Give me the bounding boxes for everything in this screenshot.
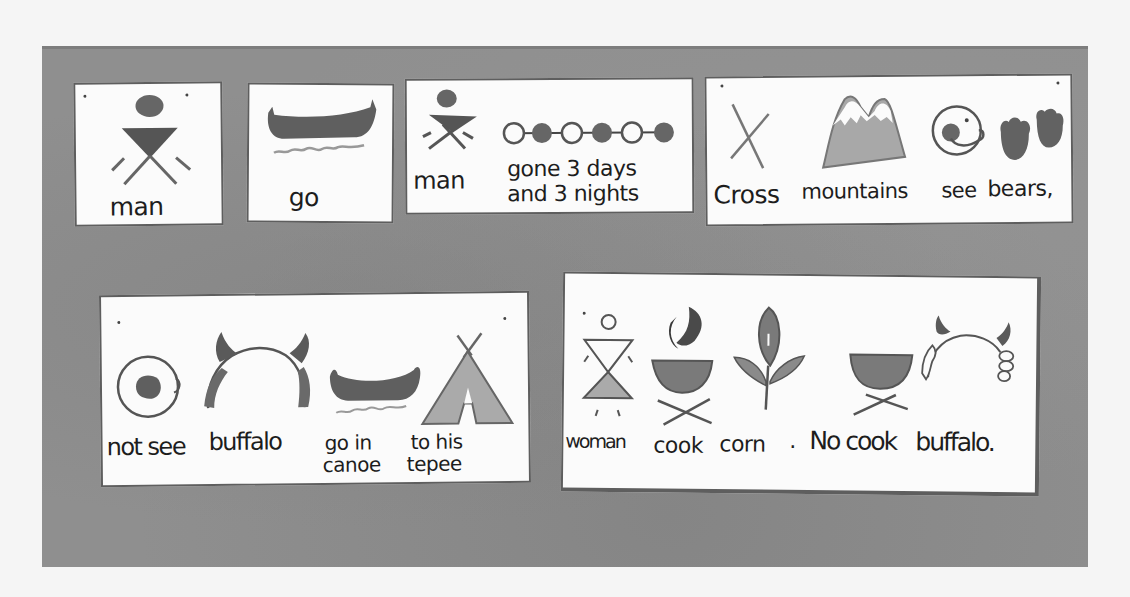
word-label: buffalo	[208, 429, 281, 454]
man-icon	[99, 91, 200, 192]
cooking-pot-fire-icon	[650, 302, 721, 427]
man-icon	[417, 86, 479, 156]
word-label: not see	[106, 434, 185, 459]
word-label: cook	[653, 434, 703, 457]
word-label-line2: canoe	[323, 454, 381, 475]
word-label: woman	[565, 432, 625, 452]
word-label-line2: tepee	[407, 453, 462, 474]
word-label: Cross	[713, 182, 779, 208]
buffalo-icon	[201, 331, 312, 412]
canoe-icon	[264, 97, 379, 160]
card-man: man	[73, 81, 223, 227]
word-label: buffalo.	[915, 429, 994, 455]
empty-pot-icon	[848, 350, 917, 421]
word-label-line1: go in	[324, 432, 371, 453]
mountains-icon	[821, 93, 908, 170]
word-label: corn	[719, 433, 765, 455]
word-label: mountains	[801, 181, 908, 203]
word-label: No cook	[809, 428, 896, 454]
days-nights-icon	[502, 117, 682, 148]
bear-paws-icon	[997, 105, 1068, 166]
eye-icon	[931, 102, 991, 159]
word-label: see	[941, 180, 976, 201]
card-woman-cook: woman cook corn . No cook buffalo.	[561, 272, 1041, 497]
word-label-line2: and 3 nights	[507, 183, 639, 206]
card-go: go	[247, 82, 395, 223]
word-label: go	[289, 185, 319, 210]
pin-hole	[117, 321, 120, 324]
pin-hole	[503, 317, 506, 320]
closed-eye-icon	[114, 352, 187, 425]
pin-hole	[83, 95, 86, 98]
woman-icon	[576, 312, 641, 423]
word-label-period: .	[789, 430, 796, 452]
card-man-gone: man gone 3 days and 3 nights	[405, 77, 695, 215]
card-cross-mountains: Cross mountains see bears,	[704, 73, 1073, 226]
pictograph-scene: man go man gone 3 days and 3	[0, 0, 1130, 597]
card-not-see-buffalo: not see buffalo go in canoe to his tepee	[99, 291, 531, 487]
pin-hole	[720, 84, 723, 87]
word-label-line1: gone 3 days	[507, 158, 636, 181]
word-label: man	[109, 194, 163, 220]
pin-hole	[1056, 82, 1059, 85]
word-label: man	[413, 168, 465, 192]
canoe-icon	[328, 362, 423, 419]
cross-icon	[727, 100, 774, 170]
buffalo-outline-icon	[920, 315, 1017, 388]
corn-icon	[732, 305, 807, 414]
word-label: bears,	[987, 178, 1053, 201]
tepee-icon	[419, 333, 514, 430]
word-label-line1: to his	[410, 431, 462, 452]
